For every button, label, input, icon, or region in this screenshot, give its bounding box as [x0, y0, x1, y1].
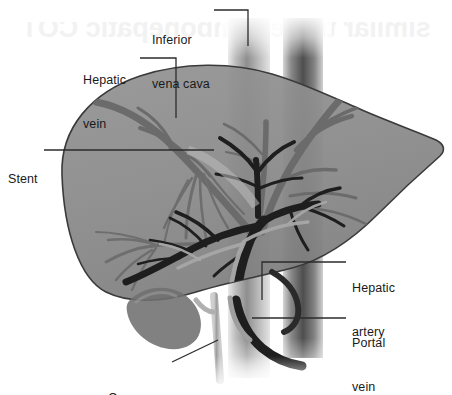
label-common-hepatic-duct-line1: Common [108, 391, 177, 395]
label-inferior-vena-cava-line1: Inferior [152, 33, 210, 48]
label-hepatic-vein-line1: Hepatic [83, 73, 126, 88]
label-portal-vein-line2: vein [352, 380, 385, 395]
vessel-top-fade [220, 14, 332, 58]
label-portal-vein-line1: Portal [352, 336, 385, 351]
label-hepatic-vein-line2: vein [83, 117, 126, 132]
label-stent: Stent [8, 143, 38, 216]
label-inferior-vena-cava-line2: vena cava [152, 77, 210, 92]
liver-anatomy-figure: similar three-dimbohepatic COT [0, 0, 452, 395]
label-common-hepatic-duct: Common hepatic duct [108, 362, 177, 395]
label-hepatic-vein: Hepatic vein [83, 44, 126, 160]
label-hepatic-artery-line1: Hepatic [352, 281, 395, 296]
label-inferior-vena-cava: Inferior vena cava [152, 4, 210, 120]
label-portal-vein: Portal vein [352, 307, 385, 395]
gallbladder-shape [127, 288, 201, 349]
label-stent-line1: Stent [8, 172, 38, 187]
